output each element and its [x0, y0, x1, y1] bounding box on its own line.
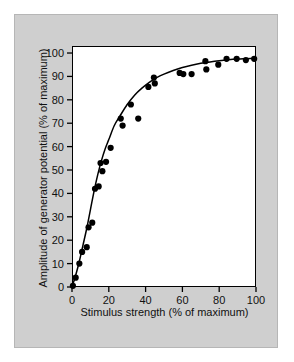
data-point [103, 159, 109, 165]
data-point [128, 101, 134, 107]
data-point [251, 56, 257, 62]
data-point [234, 56, 240, 62]
data-point [120, 122, 126, 128]
data-point [108, 145, 114, 151]
data-point [243, 57, 249, 63]
data-point [73, 275, 79, 281]
data-point [202, 58, 208, 64]
data-point [99, 168, 105, 174]
data-point [203, 66, 209, 72]
data-point [84, 244, 90, 250]
data-point [96, 183, 102, 189]
data-point [70, 283, 76, 289]
data-point [89, 220, 95, 226]
data-point [189, 71, 195, 77]
data-point [215, 62, 221, 68]
data-point [135, 115, 141, 121]
data-point [76, 261, 82, 267]
data-point [97, 160, 103, 166]
axis-ticks [67, 53, 256, 292]
y-axis-title: Amplitude of generator potential (% of m… [37, 46, 49, 290]
data-point [79, 249, 85, 255]
data-point [118, 115, 124, 121]
data-point [152, 80, 158, 86]
figure-container: 0204060801000102030405060708090100 Stimu… [0, 0, 294, 362]
data-point [145, 84, 151, 90]
data-point [180, 71, 186, 77]
data-point [223, 56, 229, 62]
x-axis-title: Stimulus strength (% of maximum) [57, 306, 272, 318]
data-point [151, 74, 157, 80]
